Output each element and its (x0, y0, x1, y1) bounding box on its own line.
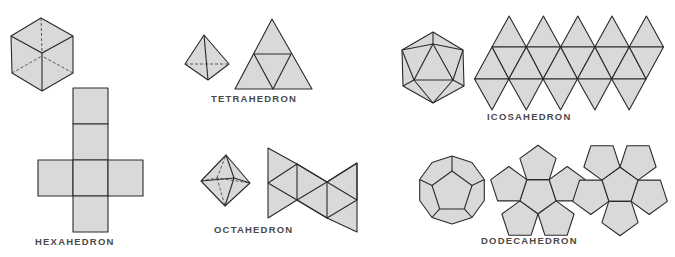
icosahedron-net (475, 16, 664, 110)
dodecahedron-label: DODECAHEDRON (481, 235, 578, 246)
tetrahedron-group: TETRAHEDRON (185, 19, 312, 104)
icosahedron-net-face (509, 79, 543, 110)
dodecahedron-group: DODECAHEDRON (420, 145, 668, 246)
icosahedron-net-face (475, 79, 509, 110)
hexahedron-group: HEXAHEDRON (11, 18, 143, 247)
icosahedron-net-face (612, 79, 646, 110)
icosahedron-net-face (492, 16, 526, 47)
hexahedron-label: HEXAHEDRON (35, 236, 115, 247)
hexahedron-net-face (73, 88, 108, 124)
icosahedron-solid (402, 32, 464, 103)
icosahedron-net-face (526, 16, 560, 47)
icosahedron-label: ICOSAHEDRON (487, 111, 571, 122)
hexahedron-net-face (73, 124, 108, 160)
hexahedron-net-face (73, 160, 108, 196)
octahedron-group: OCTAHEDRON (201, 148, 357, 235)
hexahedron-net-face (73, 196, 108, 232)
octahedron-solid (201, 155, 250, 206)
polyhedra-diagram: HEXAHEDRON TETRAHEDRON (0, 0, 675, 257)
hexahedron-net-face (38, 160, 73, 196)
icosahedron-net-face (629, 16, 663, 47)
tetrahedron-net (235, 19, 312, 89)
icosahedron-net-face (577, 79, 611, 110)
icosahedron-net-face (561, 16, 595, 47)
dodecahedron-solid (420, 156, 485, 224)
icosahedron-net-face (595, 16, 629, 47)
octahedron-net (268, 148, 357, 232)
hexahedron-net (38, 88, 143, 232)
icosahedron-group: ICOSAHEDRON (402, 16, 664, 122)
dodecahedron-net-face (573, 180, 609, 214)
dodecahedron-net (491, 145, 668, 235)
dodecahedron-net-face (602, 201, 638, 235)
dodecahedron-net-face (491, 167, 527, 201)
octahedron-label: OCTAHEDRON (214, 224, 293, 235)
hexahedron-net-face (108, 160, 143, 196)
icosahedron-net-face (543, 79, 577, 110)
dodecahedron-net-face (520, 145, 556, 179)
tetrahedron-label: TETRAHEDRON (211, 93, 297, 104)
tetrahedron-solid (185, 35, 229, 80)
hexahedron-solid (11, 18, 73, 91)
dodecahedron-net-face (631, 180, 667, 214)
